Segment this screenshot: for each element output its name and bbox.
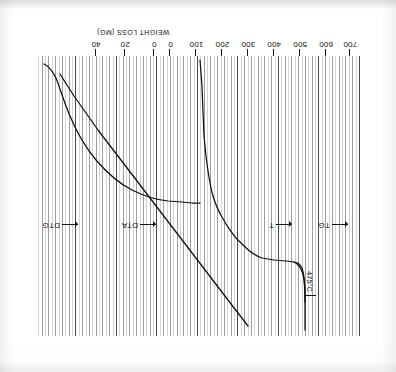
axis-tick-label: 40 [91,40,100,49]
axis-scale: 700600500400300200100002040WEIGHT LOSS (… [36,22,360,56]
plot-area: DTG DTA T TG 475°C 700600500400300200100… [36,56,360,336]
label-T: T [269,221,274,230]
axis-tick [325,49,326,56]
leader-arrow-tg [332,224,348,225]
axis-tick [153,49,154,56]
axis-tick-label: 400 [267,40,281,49]
curve-T [60,74,248,326]
label-DTG: DTG [42,221,60,230]
curve-DTG [200,60,230,230]
axis-tick [195,49,196,56]
axis-tick [273,49,274,56]
thermal-analysis-figure: DTG DTA T TG 475°C 700600500400300200100… [0,0,396,372]
axis-tick-label: 700 [343,40,357,49]
annotation-475c: 475°C [305,271,314,292]
axis-tick-label: 200 [215,40,229,49]
axis-tick [349,49,350,56]
axis-tick-label: 600 [319,40,333,49]
axis-tick-label: 0 [168,40,173,49]
axis-tick-label: 100 [189,40,203,49]
axis-tick-label: 500 [293,40,307,49]
axis-tick [299,49,300,56]
axis-tick [124,49,125,56]
leader-arrow-dtg [62,224,78,225]
axis-tick-label: 300 [241,40,255,49]
leader-arrow-dta [140,224,156,225]
curve-DTA-peak-flank [294,262,305,302]
axis-tick [169,49,170,56]
rotated-figure-wrapper: DTG DTA T TG 475°C 700600500400300200100… [0,0,396,372]
axis-tick-label: 20 [120,40,129,49]
axis-tick [221,49,222,56]
axis-tick [95,49,96,56]
axis-tick-label: 0 [152,40,157,49]
label-DTA: DTA [122,221,138,230]
axis-title: WEIGHT LOSS (MG) [97,29,170,36]
curve-DTA [230,230,305,330]
label-TG: TG [318,221,330,230]
leader-arrow-t [276,224,292,225]
curve-layer [36,56,360,336]
axis-tick [247,49,248,56]
annotation-leader-475c [305,295,316,296]
